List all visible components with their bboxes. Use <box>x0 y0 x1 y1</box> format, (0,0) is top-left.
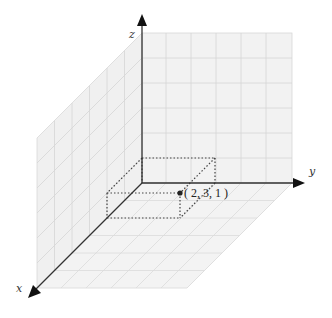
y-arrow-icon <box>293 178 305 188</box>
point-marker <box>177 190 182 195</box>
x-axis-label: x <box>16 282 23 295</box>
y-axis-label: y <box>308 165 316 178</box>
z-axis-label: z <box>128 28 135 41</box>
z-arrow-icon <box>137 14 147 26</box>
point-label: ( 2, 3, 1 ) <box>184 186 228 200</box>
coordinate-diagram: z y x ( 2, 3, 1 ) <box>0 0 332 318</box>
yz-plane <box>142 33 292 183</box>
